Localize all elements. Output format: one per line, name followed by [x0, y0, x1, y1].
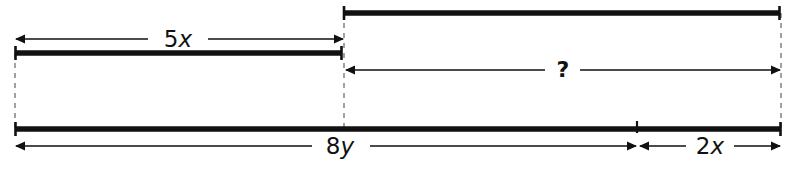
measure-8y-label-variable: y — [340, 133, 355, 159]
bottom-bar — [15, 121, 781, 136]
measure-2x-label-number: 2 — [696, 133, 711, 159]
dashed-guides — [15, 13, 781, 131]
measure-2x: 2x — [640, 133, 780, 159]
measure-unknown-label: ? — [557, 57, 570, 82]
top-right-bar — [343, 6, 780, 20]
measure-5x-label-number: 5 — [164, 26, 179, 52]
measure-8y: 8y — [16, 133, 636, 159]
bar-model-diagram: 5x ? 8y — [0, 0, 797, 169]
measure-8y-label: 8y — [326, 133, 355, 159]
diagram-canvas: 5x ? 8y — [0, 0, 797, 169]
measure-5x-label-variable: x — [178, 26, 193, 52]
measure-2x-label: 2x — [696, 133, 725, 159]
measure-8y-label-number: 8 — [326, 133, 341, 159]
measure-2x-label-variable: x — [710, 133, 725, 159]
measure-unknown: ? — [346, 57, 780, 82]
measure-5x: 5x — [16, 26, 343, 52]
measure-5x-label: 5x — [164, 26, 193, 52]
